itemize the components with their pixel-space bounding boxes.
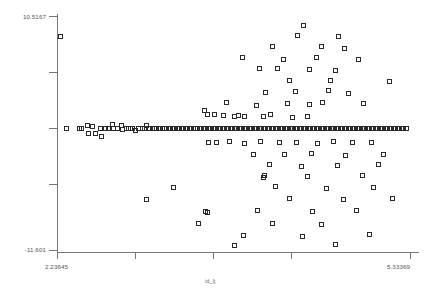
data-point bbox=[319, 44, 324, 49]
data-point bbox=[354, 208, 359, 213]
data-point bbox=[367, 232, 372, 237]
data-point bbox=[346, 91, 351, 96]
data-point bbox=[320, 100, 325, 105]
data-point bbox=[227, 139, 232, 144]
data-point bbox=[290, 115, 295, 120]
data-point bbox=[144, 197, 149, 202]
data-point bbox=[309, 151, 314, 156]
data-point bbox=[258, 139, 263, 144]
data-point bbox=[93, 131, 98, 136]
data-point bbox=[293, 89, 298, 94]
data-point bbox=[350, 140, 355, 145]
data-point bbox=[300, 234, 305, 239]
data-point bbox=[205, 112, 210, 117]
data-point bbox=[390, 196, 395, 201]
data-point bbox=[333, 68, 338, 73]
data-point bbox=[275, 66, 280, 71]
data-point bbox=[64, 126, 69, 131]
data-point bbox=[205, 210, 210, 215]
data-point bbox=[361, 101, 366, 106]
data-point bbox=[270, 44, 275, 49]
data-point bbox=[212, 112, 217, 117]
data-point bbox=[387, 79, 392, 84]
data-point bbox=[261, 175, 266, 180]
data-point bbox=[206, 140, 211, 145]
data-point-layer bbox=[0, 0, 426, 296]
data-point bbox=[305, 174, 310, 179]
data-point bbox=[294, 140, 299, 145]
data-point bbox=[341, 197, 346, 202]
data-point bbox=[356, 57, 361, 62]
data-point bbox=[314, 55, 319, 60]
data-point bbox=[268, 112, 273, 117]
data-point bbox=[335, 163, 340, 168]
data-point bbox=[242, 114, 247, 119]
data-point bbox=[285, 101, 290, 106]
data-point bbox=[295, 33, 300, 38]
data-point bbox=[221, 113, 226, 118]
data-point bbox=[310, 209, 315, 214]
data-point bbox=[251, 152, 256, 157]
data-point bbox=[369, 140, 374, 145]
data-point bbox=[360, 173, 365, 178]
data-point bbox=[241, 233, 246, 238]
data-point bbox=[307, 67, 312, 72]
data-point bbox=[255, 208, 260, 213]
data-point bbox=[381, 152, 386, 157]
data-point bbox=[90, 124, 95, 129]
data-point bbox=[261, 114, 266, 119]
data-point bbox=[171, 185, 176, 190]
data-point bbox=[242, 141, 247, 146]
data-point bbox=[281, 57, 286, 62]
data-point bbox=[282, 152, 287, 157]
scatter-plot-figure: 10.5167 -11.601 2.23645 5.33369 id_lj bbox=[0, 0, 426, 296]
data-point bbox=[254, 103, 259, 108]
data-point bbox=[336, 34, 341, 39]
data-point bbox=[277, 140, 282, 145]
data-point bbox=[326, 88, 331, 93]
data-point bbox=[299, 164, 304, 169]
data-point bbox=[333, 242, 338, 247]
data-point bbox=[267, 162, 272, 167]
data-point bbox=[307, 102, 312, 107]
data-point bbox=[257, 66, 262, 71]
data-point bbox=[305, 114, 310, 119]
data-point bbox=[315, 141, 320, 146]
data-point bbox=[58, 34, 63, 39]
data-point bbox=[240, 55, 245, 60]
data-point bbox=[196, 221, 201, 226]
data-point bbox=[273, 184, 278, 189]
data-point bbox=[301, 23, 306, 28]
data-point bbox=[270, 221, 275, 226]
data-point bbox=[263, 90, 268, 95]
data-point bbox=[86, 131, 91, 136]
data-point bbox=[99, 134, 104, 139]
data-point bbox=[324, 186, 329, 191]
data-point bbox=[376, 162, 381, 167]
data-point bbox=[342, 46, 347, 51]
data-point bbox=[404, 126, 409, 131]
data-point bbox=[371, 185, 376, 190]
data-point bbox=[232, 243, 237, 248]
data-point bbox=[287, 196, 292, 201]
data-point bbox=[331, 139, 336, 144]
data-point bbox=[328, 78, 333, 83]
data-point bbox=[287, 78, 292, 83]
data-point bbox=[319, 222, 324, 227]
data-point bbox=[236, 113, 241, 118]
data-point bbox=[214, 140, 219, 145]
data-point bbox=[224, 100, 229, 105]
data-point bbox=[343, 153, 348, 158]
